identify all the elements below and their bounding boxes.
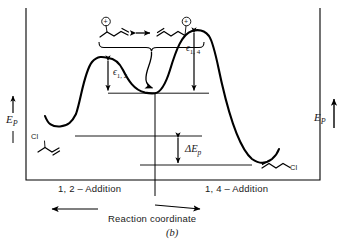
product-structure-left [38,141,60,155]
right-axis-label: EP [314,112,326,126]
activation-energy-14-label: ϵ1, 4 [186,44,200,56]
region-label-12-addition: 1, 2 – Addition [58,184,121,194]
product-structure-right [262,161,290,169]
resonance-structure-right [157,26,186,36]
left-axis-label: EP [6,114,18,128]
plus-charge-left: + [104,18,108,25]
delta-ep-label: ΔEp [185,144,201,157]
diagram-canvas [0,0,346,244]
region-label-14-addition: 1, 4 – Addition [205,184,268,194]
reaction-coordinate-arrows [52,205,200,209]
energy-profile-curve [45,30,279,163]
intermediate-pointer-arrow [146,52,153,88]
chlorine-label-right: Cl [290,164,297,172]
reaction-energy-diagram: EP EP ϵ1, 2 ϵ1, 4 ΔEp + + Cl Cl 1, 2 – A… [0,0,346,244]
resonance-structure-left [100,26,129,38]
activation-energy-12-label: ϵ1, 2 [113,68,127,80]
figure-caption: (b) [166,228,178,239]
chlorine-label-left: Cl [31,133,38,141]
plus-charge-right: + [184,18,188,25]
reaction-coordinate-label: Reaction coordinate [108,214,196,224]
